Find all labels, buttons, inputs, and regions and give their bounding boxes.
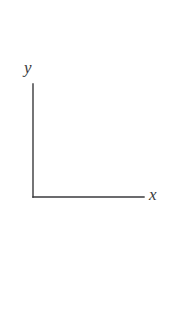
figure-canvas: y x (0, 0, 175, 311)
axes-group (33, 84, 144, 197)
coordinate-axes-drawing (0, 0, 175, 311)
y-axis-label: y (24, 59, 32, 76)
x-axis-label: x (149, 186, 157, 203)
